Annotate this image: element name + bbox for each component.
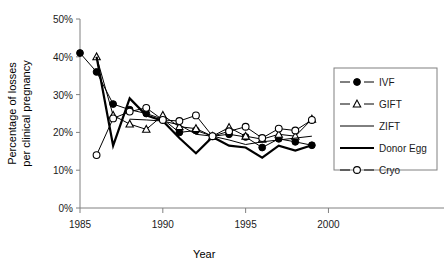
data-point [242,123,249,130]
x-tick-label: 1985 [69,219,92,230]
data-point [308,117,315,124]
y-tick-label: 40% [53,52,73,63]
data-point [159,117,166,124]
data-point [77,50,84,57]
x-tick-label: 1990 [152,219,175,230]
data-point [292,127,299,134]
data-point [126,108,133,115]
y-tick-label: 20% [53,127,73,138]
y-tick-label: 50% [53,14,73,25]
legend-label: Cryo [379,165,401,176]
y-tick-label: 10% [53,165,73,176]
data-point [259,144,266,151]
data-point [93,152,100,159]
chart-container: 0%10%20%30%40%50%1985199019952000YearPer… [0,0,447,266]
data-point [126,120,133,127]
data-point [209,133,216,140]
data-point [110,115,117,122]
x-tick-label: 1995 [235,219,258,230]
legend-label: IVF [379,77,395,88]
x-axis-title: Year [193,248,216,260]
y-axis-title-line: per clinical pregnancy [20,60,32,167]
data-point [176,118,183,125]
y-tick-label: 30% [53,90,73,101]
legend-label: Donor Egg [379,143,427,154]
data-point [193,112,200,119]
line-chart: 0%10%20%30%40%50%1985199019952000YearPer… [0,0,447,266]
data-point [143,104,150,111]
legend-marker [354,79,361,86]
data-point [259,135,266,142]
legend-marker [354,167,361,174]
y-axis-title-line: Percentage of losses [6,62,18,165]
legend-label: ZIFT [379,121,400,132]
y-axis-title: Percentage of lossesper clinical pregnan… [6,60,32,167]
x-axis-ticks: 1985199019952000 [69,208,340,230]
y-axis-ticks: 0%10%20%30%40%50% [53,14,80,214]
y-tick-label: 0% [59,203,74,214]
data-point [275,125,282,132]
legend-label: GIFT [379,99,402,110]
x-tick-label: 2000 [317,219,340,230]
legend: IVFGIFTZIFTDonor EggCryo [334,68,437,176]
series-cryo [93,104,315,158]
data-point [226,128,233,135]
